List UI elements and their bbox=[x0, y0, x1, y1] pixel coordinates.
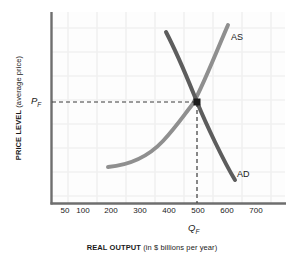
equilibrium-price-label: PF bbox=[31, 95, 41, 108]
y-axis-title-rest: (average price) bbox=[14, 56, 23, 110]
y-axis-title: PRICE LEVEL (average price) bbox=[14, 56, 23, 160]
x-tick-label-100: 100 bbox=[68, 206, 98, 215]
x-tick-label-200: 200 bbox=[96, 206, 126, 215]
y-axis-title-wrapper: PRICE LEVEL (average price) bbox=[7, 28, 21, 188]
x-tick-label-600: 600 bbox=[212, 206, 242, 215]
equilibrium-point-marker bbox=[194, 99, 201, 106]
chart-figure: AS AD PF QF 50 100 200 300 400 500 600 7… bbox=[0, 0, 304, 265]
x-tick-label-500: 500 bbox=[183, 206, 213, 215]
equilibrium-output-subscript: F bbox=[195, 228, 199, 235]
equilibrium-output-label: QF bbox=[188, 222, 199, 235]
x-axis-title: REAL OUTPUT (in $ billions per year) bbox=[0, 243, 304, 252]
y-axis-title-bold: PRICE LEVEL bbox=[14, 110, 23, 160]
chart-plot-area bbox=[0, 0, 304, 265]
x-axis-title-bold: REAL OUTPUT bbox=[87, 243, 141, 252]
x-tick-label-700: 700 bbox=[241, 206, 271, 215]
x-tick-label-300: 300 bbox=[125, 206, 155, 215]
ad-curve-label: AD bbox=[237, 169, 250, 179]
as-curve-label: AS bbox=[231, 32, 243, 42]
equilibrium-price-subscript: F bbox=[37, 101, 41, 108]
x-tick-label-400: 400 bbox=[154, 206, 184, 215]
x-axis-title-rest: (in $ billions per year) bbox=[141, 243, 217, 252]
